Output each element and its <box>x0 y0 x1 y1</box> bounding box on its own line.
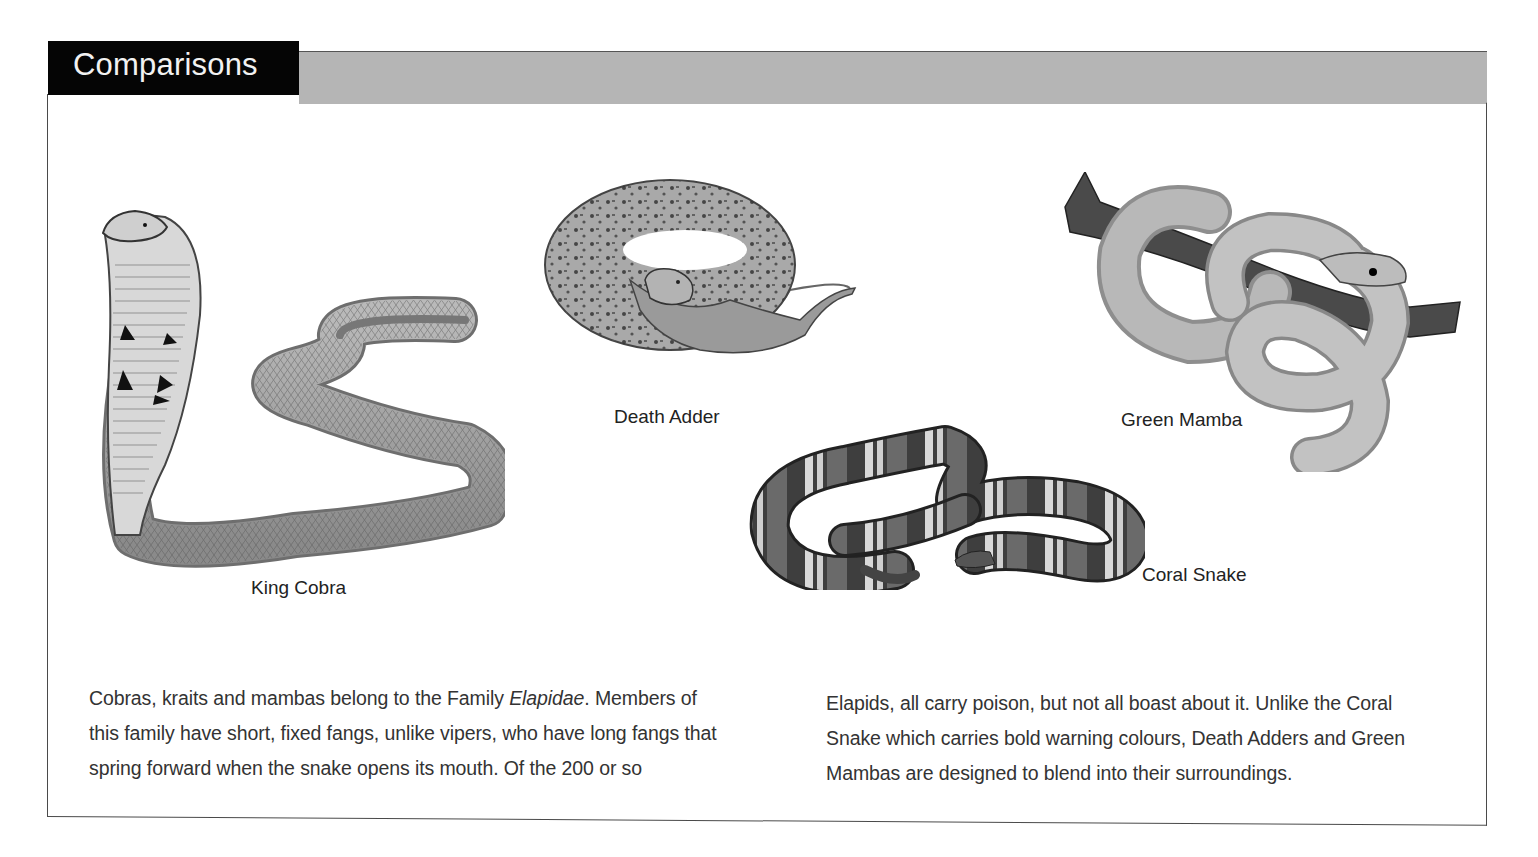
coral-snake-illustration <box>745 420 1145 590</box>
body-right-line-3: Mambas are designed to blend into their … <box>826 756 1405 791</box>
body-left-line-3: spring forward when the snake opens its … <box>89 751 717 786</box>
section-title-box: Comparisons <box>48 41 299 95</box>
body-text-right: Elapids, all carry poison, but not all b… <box>826 686 1405 791</box>
coral-snake-label: Coral Snake <box>1142 564 1247 586</box>
body-text-left: Cobras, kraits and mambas belong to the … <box>89 681 717 786</box>
body-right-line-2: Snake which carries bold warning colours… <box>826 721 1405 756</box>
section-title: Comparisons <box>73 47 258 83</box>
king-cobra-label: King Cobra <box>251 577 346 599</box>
death-adder-label: Death Adder <box>614 406 720 428</box>
body-right-line-1: Elapids, all carry poison, but not all b… <box>826 686 1405 721</box>
body-left-line-2: this family have short, fixed fangs, unl… <box>89 716 717 751</box>
death-adder-illustration <box>540 170 860 380</box>
body-left-line-1: Cobras, kraits and mambas belong to the … <box>89 681 717 716</box>
king-cobra-illustration <box>95 205 505 570</box>
family-name-italic: Elapidae <box>509 687 584 709</box>
